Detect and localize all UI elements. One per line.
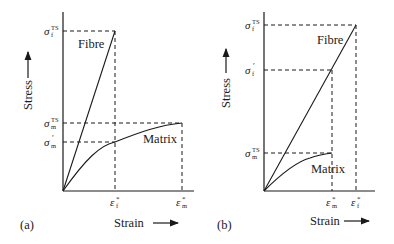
svg-text:m: m: [182, 202, 187, 209]
svg-text:ε: ε: [326, 196, 331, 208]
svg-text:σ: σ: [44, 25, 50, 37]
svg-text:f: f: [357, 202, 360, 209]
svg-text:′: ′: [52, 134, 54, 143]
y-tick-matrix-prime: σ m ′: [44, 134, 56, 149]
x-axis-title: Strain: [114, 216, 145, 230]
svg-text:TS: TS: [51, 24, 59, 31]
svg-text:σ: σ: [245, 147, 251, 159]
svg-text:TS: TS: [252, 18, 260, 25]
y-tick-fibre-ts: σ f TS: [245, 18, 260, 32]
svg-text:*: *: [357, 195, 361, 203]
svg-text:σ: σ: [245, 19, 251, 31]
svg-text:m: m: [252, 153, 257, 160]
panel-b: Fibre Matrix σ f TS σ f ′ σ m TS ε m * ε…: [217, 12, 375, 232]
svg-text:f: f: [116, 202, 119, 209]
svg-text:TS: TS: [252, 146, 260, 153]
svg-text:σ: σ: [245, 64, 251, 76]
svg-text:′: ′: [253, 62, 255, 71]
x-tick-matrix-fail: ε m *: [176, 195, 187, 209]
svg-text:m: m: [51, 123, 56, 130]
y-axis-title: Stress: [219, 78, 233, 108]
matrix-label: Matrix: [143, 132, 178, 146]
x-tick-fibre-fail: ε f *: [351, 195, 361, 209]
svg-text:TS: TS: [51, 116, 59, 123]
fibre-label: Fibre: [317, 33, 344, 47]
svg-text:ε: ε: [176, 196, 181, 208]
y-tick-fibre-ts: σ f TS: [44, 24, 59, 38]
panel-label-b: (b): [217, 218, 232, 232]
svg-text:*: *: [182, 195, 186, 203]
matrix-label: Matrix: [311, 162, 346, 176]
y-tick-matrix-ts: σ m TS: [44, 116, 59, 130]
svg-text:f: f: [252, 25, 255, 32]
y-tick-fibre-prime: σ f ′: [245, 62, 255, 77]
stress-strain-diagram: Fibre Matrix σ f TS σ m TS σ m ′ ε f * ε…: [0, 0, 394, 244]
svg-text:σ: σ: [44, 136, 50, 148]
panel-a: Fibre Matrix σ f TS σ m TS σ m ′ ε f * ε…: [20, 12, 194, 232]
svg-text:ε: ε: [351, 196, 356, 208]
svg-text:σ: σ: [44, 117, 50, 129]
svg-text:f: f: [51, 31, 54, 38]
y-axis-title: Stress: [21, 80, 35, 110]
x-tick-matrix-fail: ε m *: [326, 195, 337, 209]
svg-text:f: f: [252, 70, 255, 77]
svg-text:m: m: [51, 142, 56, 149]
y-tick-matrix-ts: σ m TS: [245, 146, 260, 160]
fibre-curve: [63, 31, 115, 191]
svg-text:*: *: [332, 195, 336, 203]
svg-text:ε: ε: [110, 196, 115, 208]
panel-label-a: (a): [20, 218, 34, 232]
svg-text:m: m: [332, 202, 337, 209]
x-axis-title: Strain: [310, 214, 341, 228]
svg-text:*: *: [116, 195, 120, 203]
x-tick-fibre-fail: ε f *: [110, 195, 120, 209]
fibre-label: Fibre: [78, 37, 105, 51]
